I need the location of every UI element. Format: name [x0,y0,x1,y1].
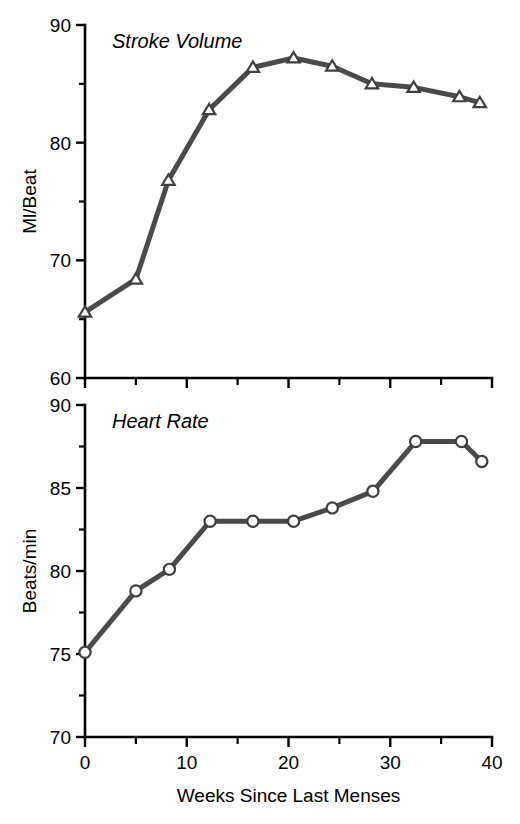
chart-panel-heart-rate: 7075808590010203040Heart RateBeats/minWe… [0,390,520,824]
y-tick-label: 90 [50,15,71,36]
data-point-marker [288,516,299,527]
data-point-marker [130,273,142,283]
series-line [85,58,480,312]
data-point-marker [410,436,421,447]
y-tick-label: 80 [50,561,71,582]
data-point-marker [474,97,486,107]
y-tick-label: 70 [50,727,71,748]
x-tick-label: 30 [380,752,401,773]
data-point-marker [326,60,338,70]
panel-title: Heart Rate [112,410,209,432]
y-tick-label: 70 [50,250,71,271]
data-point-marker [205,516,216,527]
data-point-marker [247,516,258,527]
stroke-volume-plot: 60708090Stroke VolumeMl/Beat [0,0,520,400]
x-tick-label: 40 [481,752,502,773]
heart-rate-plot: 7075808590010203040Heart RateBeats/minWe… [0,390,520,824]
series-line [85,442,482,653]
x-tick-label: 10 [176,752,197,773]
y-tick-label: 80 [50,133,71,154]
y-tick-label: 90 [50,395,71,416]
data-point-marker [79,647,90,658]
x-tick-label: 20 [278,752,299,773]
data-point-marker [453,91,465,101]
data-point-marker [164,564,175,575]
x-tick-label: 0 [80,752,91,773]
y-axis-title: Ml/Beat [19,169,40,234]
panel-title: Stroke Volume [112,30,242,52]
data-point-marker [130,585,141,596]
x-axis-title: Weeks Since Last Menses [177,785,401,806]
data-point-marker [456,436,467,447]
data-point-marker [247,61,259,71]
y-tick-label: 60 [50,368,71,389]
data-point-marker [327,502,338,513]
data-point-marker [367,486,378,497]
chart-panel-stroke-volume: 60708090Stroke VolumeMl/Beat [0,0,520,400]
y-tick-label: 75 [50,644,71,665]
figure-container: 60708090Stroke VolumeMl/Beat 70758085900… [0,0,520,824]
y-axis-title: Beats/min [19,529,40,613]
y-tick-label: 85 [50,478,71,499]
data-point-marker [407,81,419,91]
data-point-marker [287,52,299,62]
data-point-marker [476,456,487,467]
